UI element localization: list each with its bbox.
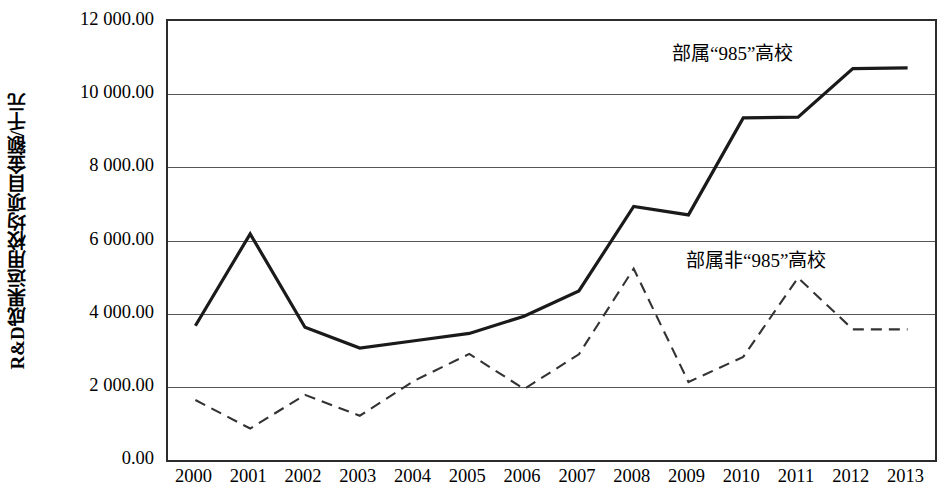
series-line-0 bbox=[195, 68, 907, 348]
series-annotation-985: 部属“985”高校 bbox=[672, 44, 793, 63]
series-annotation-non-985: 部属非“985”高校 bbox=[686, 251, 826, 270]
x-axis-tick-label: 2000 bbox=[175, 466, 212, 487]
x-axis-tick-label: 2004 bbox=[394, 466, 431, 487]
y-axis-title: R&D成果运用校均项目金额/千元 bbox=[0, 0, 34, 462]
plot-area bbox=[166, 19, 937, 462]
y-axis-tick-label: 12 000.00 bbox=[80, 9, 154, 30]
x-axis-tick-label: 2007 bbox=[558, 466, 595, 487]
x-axis-tick-label: 2011 bbox=[778, 466, 814, 487]
y-axis-tick-label: 0.00 bbox=[122, 448, 154, 469]
y-axis-tick-label: 4 000.00 bbox=[89, 301, 154, 322]
y-axis-tick-label: 2 000.00 bbox=[89, 374, 154, 395]
y-axis-tick-label: 10 000.00 bbox=[80, 82, 154, 103]
series-line-1 bbox=[195, 269, 907, 429]
x-axis-tick-label: 2001 bbox=[230, 466, 267, 487]
x-axis-tick-label: 2003 bbox=[339, 466, 376, 487]
x-axis-tick-labels: 2000200120022003200420052006200720082009… bbox=[166, 466, 933, 499]
y-axis-tick-labels: 0.002 000.004 000.006 000.008 000.0010 0… bbox=[34, 0, 160, 480]
x-axis-tick-label: 2009 bbox=[668, 466, 705, 487]
x-axis-tick-label: 2005 bbox=[449, 466, 486, 487]
x-axis-tick-label: 2012 bbox=[832, 466, 869, 487]
x-axis-tick-label: 2010 bbox=[723, 466, 760, 487]
y-axis-tick-label: 6 000.00 bbox=[89, 228, 154, 249]
x-axis-tick-label: 2008 bbox=[613, 466, 650, 487]
x-axis-tick-label: 2002 bbox=[284, 466, 321, 487]
x-axis-tick-label: 2006 bbox=[504, 466, 541, 487]
chart-figure: R&D成果运用校均项目金额/千元 0.002 000.004 000.006 0… bbox=[0, 0, 943, 499]
chart-series-svg bbox=[168, 21, 935, 460]
x-axis-tick-label: 2013 bbox=[887, 466, 924, 487]
y-axis-title-label: R&D成果运用校均项目金额/千元 bbox=[8, 93, 27, 370]
y-axis-tick-label: 8 000.00 bbox=[89, 155, 154, 176]
